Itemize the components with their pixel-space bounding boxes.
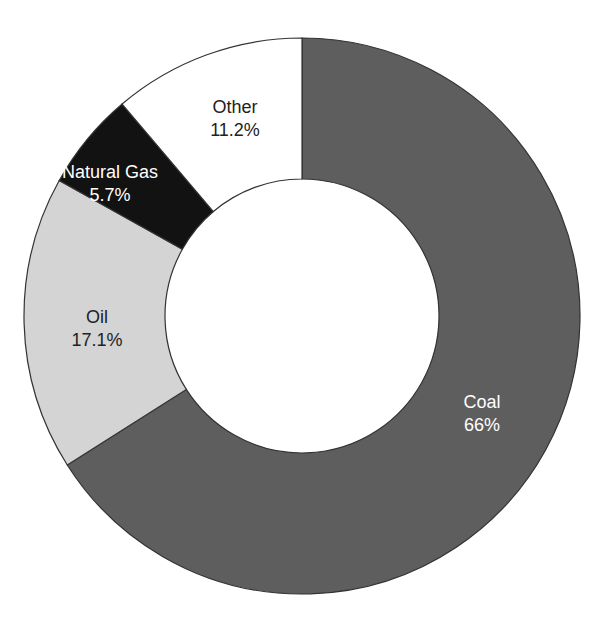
donut-chart: Coal66%Oil17.1%Natural Gas5.7%Other11.2% xyxy=(0,0,604,627)
